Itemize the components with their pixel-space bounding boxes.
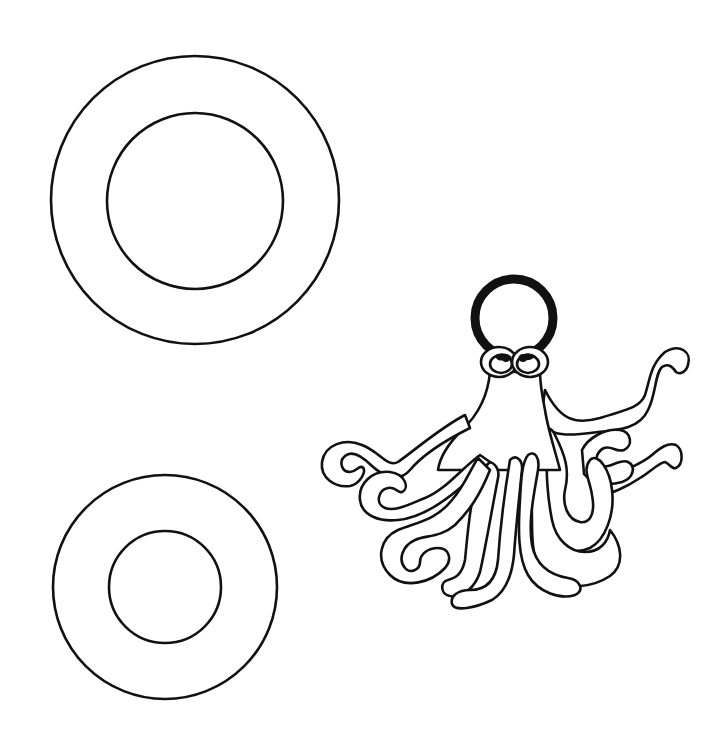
tentacle-right-upper (540, 348, 689, 434)
right-pupil (519, 354, 527, 362)
large-ring-inner (107, 113, 283, 289)
head-ring (475, 279, 553, 357)
coloring-page-canvas (0, 0, 706, 740)
small-ring (53, 475, 277, 699)
small-ring-inner (109, 531, 221, 643)
left-pupil (502, 354, 510, 362)
octopus (322, 279, 689, 608)
small-ring-outer (53, 475, 277, 699)
large-ring-outer (51, 56, 339, 344)
large-ring (51, 56, 339, 344)
